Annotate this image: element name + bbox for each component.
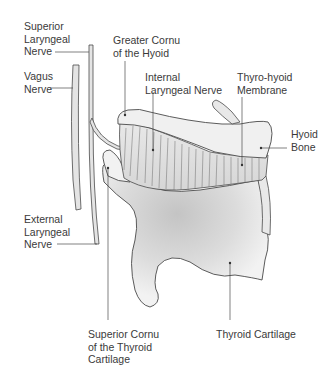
- label-external-laryngeal-nerve: External Laryngeal Nerve: [24, 213, 70, 251]
- vagus-nerve: [72, 65, 82, 210]
- lesser-cornu-hyoid: [212, 100, 240, 124]
- label-greater-cornu-hyoid: Greater Cornu of the Hyoid: [113, 34, 180, 59]
- label-hyoid-bone: Hyoid Bone: [291, 128, 318, 153]
- label-thyroid-cartilage: Thyroid Cartilage: [216, 328, 296, 341]
- label-thyrohyoid-membrane: Thyro-hyoid Membrane: [237, 71, 292, 96]
- label-superior-cornu-thyroid: Superior Cornu of the Thyroid Cartilage: [88, 328, 159, 366]
- label-internal-laryngeal-nerve: Internal Laryngeal Nerve: [145, 71, 222, 96]
- label-vagus-nerve: Vagus Nerve: [24, 70, 53, 95]
- superior-laryngeal-nerve: [89, 45, 99, 244]
- label-superior-laryngeal-nerve: Superior Laryngeal Nerve: [24, 20, 70, 58]
